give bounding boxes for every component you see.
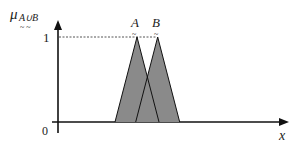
union-membership-diagram: μ A∪B ~ ~ 1 0 A ~ B ~ x bbox=[0, 0, 296, 147]
y-axis-arrow-icon bbox=[54, 20, 62, 30]
series-label-a-tilde: ~ bbox=[132, 30, 137, 39]
x-axis-label: x bbox=[278, 128, 286, 143]
series-label-b: B bbox=[152, 15, 160, 30]
series-label-b-tilde: ~ bbox=[154, 30, 159, 39]
y-axis-label-tildes: ~ ~ bbox=[20, 23, 31, 32]
series-label-a: A bbox=[130, 15, 139, 30]
ytick-label-0: 0 bbox=[42, 124, 48, 138]
y-axis-label-subscript: A∪B bbox=[18, 12, 38, 23]
y-axis-label-mu: μ bbox=[9, 6, 18, 22]
x-axis-arrow-icon bbox=[279, 118, 289, 126]
ytick-label-1: 1 bbox=[43, 30, 50, 45]
